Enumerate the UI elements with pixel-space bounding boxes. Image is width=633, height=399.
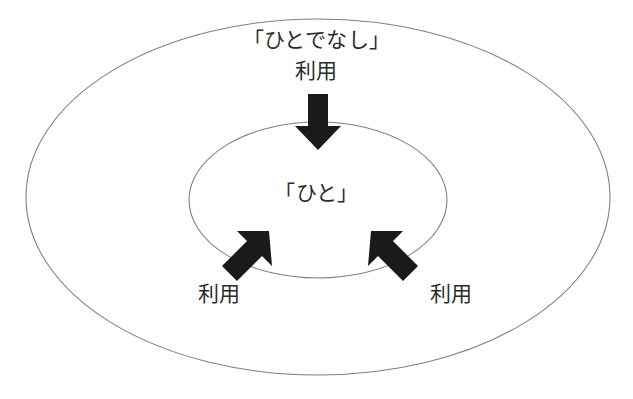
top-arrow-label: 利用 [0,61,633,82]
inner-region-title: 「ひと」 [0,183,633,204]
diagram-canvas: 「ひとでなし」 利用 「ひと」 利用 利用 [0,0,633,399]
outer-region-title: 「ひとでなし」 [0,30,633,51]
right-arrow-label: 利用 [418,284,484,305]
left-arrow-label: 利用 [186,284,252,305]
